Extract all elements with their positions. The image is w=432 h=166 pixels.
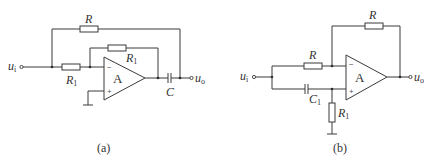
wire-a-outer-left	[52, 29, 80, 67]
label-ui-b: ui	[240, 69, 249, 84]
panel-b: R R C1 R1 A − + ui uo (b)	[240, 8, 424, 155]
resistor-r-outer-a	[80, 26, 98, 32]
resistor-r1-feedback-a	[108, 45, 126, 51]
label-r1-input-a: R1	[65, 73, 77, 88]
label-opamp-a: A	[113, 71, 123, 86]
resistor-r1-input-a	[62, 64, 80, 70]
resistor-r-input-b	[304, 63, 322, 69]
label-uo-b: uo	[414, 70, 424, 85]
resistor-r1-ground-b	[329, 103, 335, 122]
junction-a-4	[179, 77, 182, 80]
output-terminal-a	[190, 76, 193, 79]
label-ui-a: ui	[8, 59, 17, 74]
label-r-top-a: R	[84, 12, 93, 26]
label-r-input-b: R	[308, 48, 317, 62]
caption-a: (a)	[97, 141, 110, 155]
label-opamp-b: A	[355, 70, 365, 85]
minus-sign-b: −	[349, 60, 354, 69]
label-uo-a: uo	[195, 71, 205, 86]
circuit-figure: R R1 R1 C A − + ui uo (a)	[0, 0, 432, 166]
input-terminal-b	[252, 75, 255, 78]
output-terminal-b	[409, 75, 412, 78]
junction-b-4	[399, 76, 402, 79]
minus-sign-a: −	[107, 63, 112, 72]
caption-b: (b)	[333, 141, 347, 155]
label-c1-b: C1	[309, 92, 321, 107]
plus-sign-a: +	[107, 87, 112, 96]
wire-b-fb-right	[383, 26, 400, 77]
label-r1-feedback-a: R1	[125, 51, 137, 66]
label-r1-b: R1	[337, 106, 349, 121]
label-c-a: C	[166, 85, 175, 99]
plus-sign-b: +	[349, 87, 354, 96]
label-r-feedback-b: R	[368, 8, 377, 22]
junction-a-3	[157, 77, 160, 80]
wire-a-ground	[88, 91, 104, 105]
circuit-diagrams-svg: R R1 R1 C A − + ui uo (a)	[0, 0, 432, 166]
input-terminal-a	[20, 65, 23, 68]
resistor-r-feedback-b	[365, 23, 383, 29]
panel-a: R R1 R1 C A − + ui uo (a)	[8, 12, 205, 155]
